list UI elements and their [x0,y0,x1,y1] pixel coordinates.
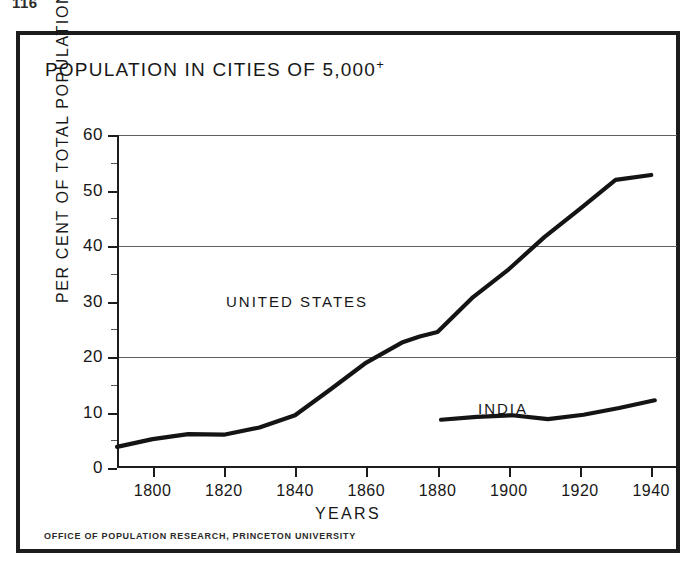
y-tick-label-50: 50 [83,181,103,201]
x-tick-label-1840: 1840 [276,482,314,500]
y-tick-30 [108,302,117,304]
x-tick-1860 [366,468,368,477]
x-tick-1880 [438,468,440,477]
y-tick-40 [108,246,117,248]
x-tick-label-1920: 1920 [561,482,599,500]
y-tick-label-30: 30 [83,292,103,312]
x-tick-1840 [295,468,297,477]
x-tick-1820 [224,468,226,477]
x-tick-label-1860: 1860 [347,482,385,500]
y-tick-label-60: 60 [83,125,103,145]
y-tick-20 [108,357,117,359]
series-line-india [441,400,655,419]
x-tick-1800 [153,468,155,477]
series-label-united-states: UNITED STATES [226,293,368,310]
chart-title: POPULATION IN CITIES OF 5,000+ [45,57,384,81]
x-tick-1940 [651,468,653,477]
y-tick-label-20: 20 [83,347,103,367]
x-tick-1900 [509,468,511,477]
y-tick-label-10: 10 [83,403,103,423]
x-axis-title: YEARS [20,505,676,523]
figure-frame: POPULATION IN CITIES OF 5,000+ PER CENT … [16,31,680,553]
x-tick-label-1800: 1800 [134,482,172,500]
x-tick-1920 [580,468,582,477]
series-label-india: INDIA [478,400,528,417]
y-tick-0 [108,468,117,470]
y-tick-label-0: 0 [93,458,103,478]
series-lines [117,135,669,468]
page-number: 116 [12,0,38,11]
y-tick-50 [108,191,117,193]
y-axis-title: PER CENT OF TOTAL POPULATION [54,0,72,303]
x-tick-label-1820: 1820 [205,482,243,500]
y-tick-60 [108,135,117,137]
y-tick-label-40: 40 [83,236,103,256]
x-tick-label-1940: 1940 [632,482,670,500]
x-tick-label-1900: 1900 [490,482,528,500]
x-tick-label-1880: 1880 [419,482,457,500]
y-tick-10 [108,413,117,415]
credit-line: OFFICE OF POPULATION RESEARCH, PRINCETON… [44,531,356,541]
chart-title-superscript: + [376,57,384,72]
series-line-united-states [117,175,651,447]
chart-title-text: POPULATION IN CITIES OF 5,000 [45,59,376,80]
plot-area: 0102030405060 18001820184018601880190019… [117,135,669,468]
